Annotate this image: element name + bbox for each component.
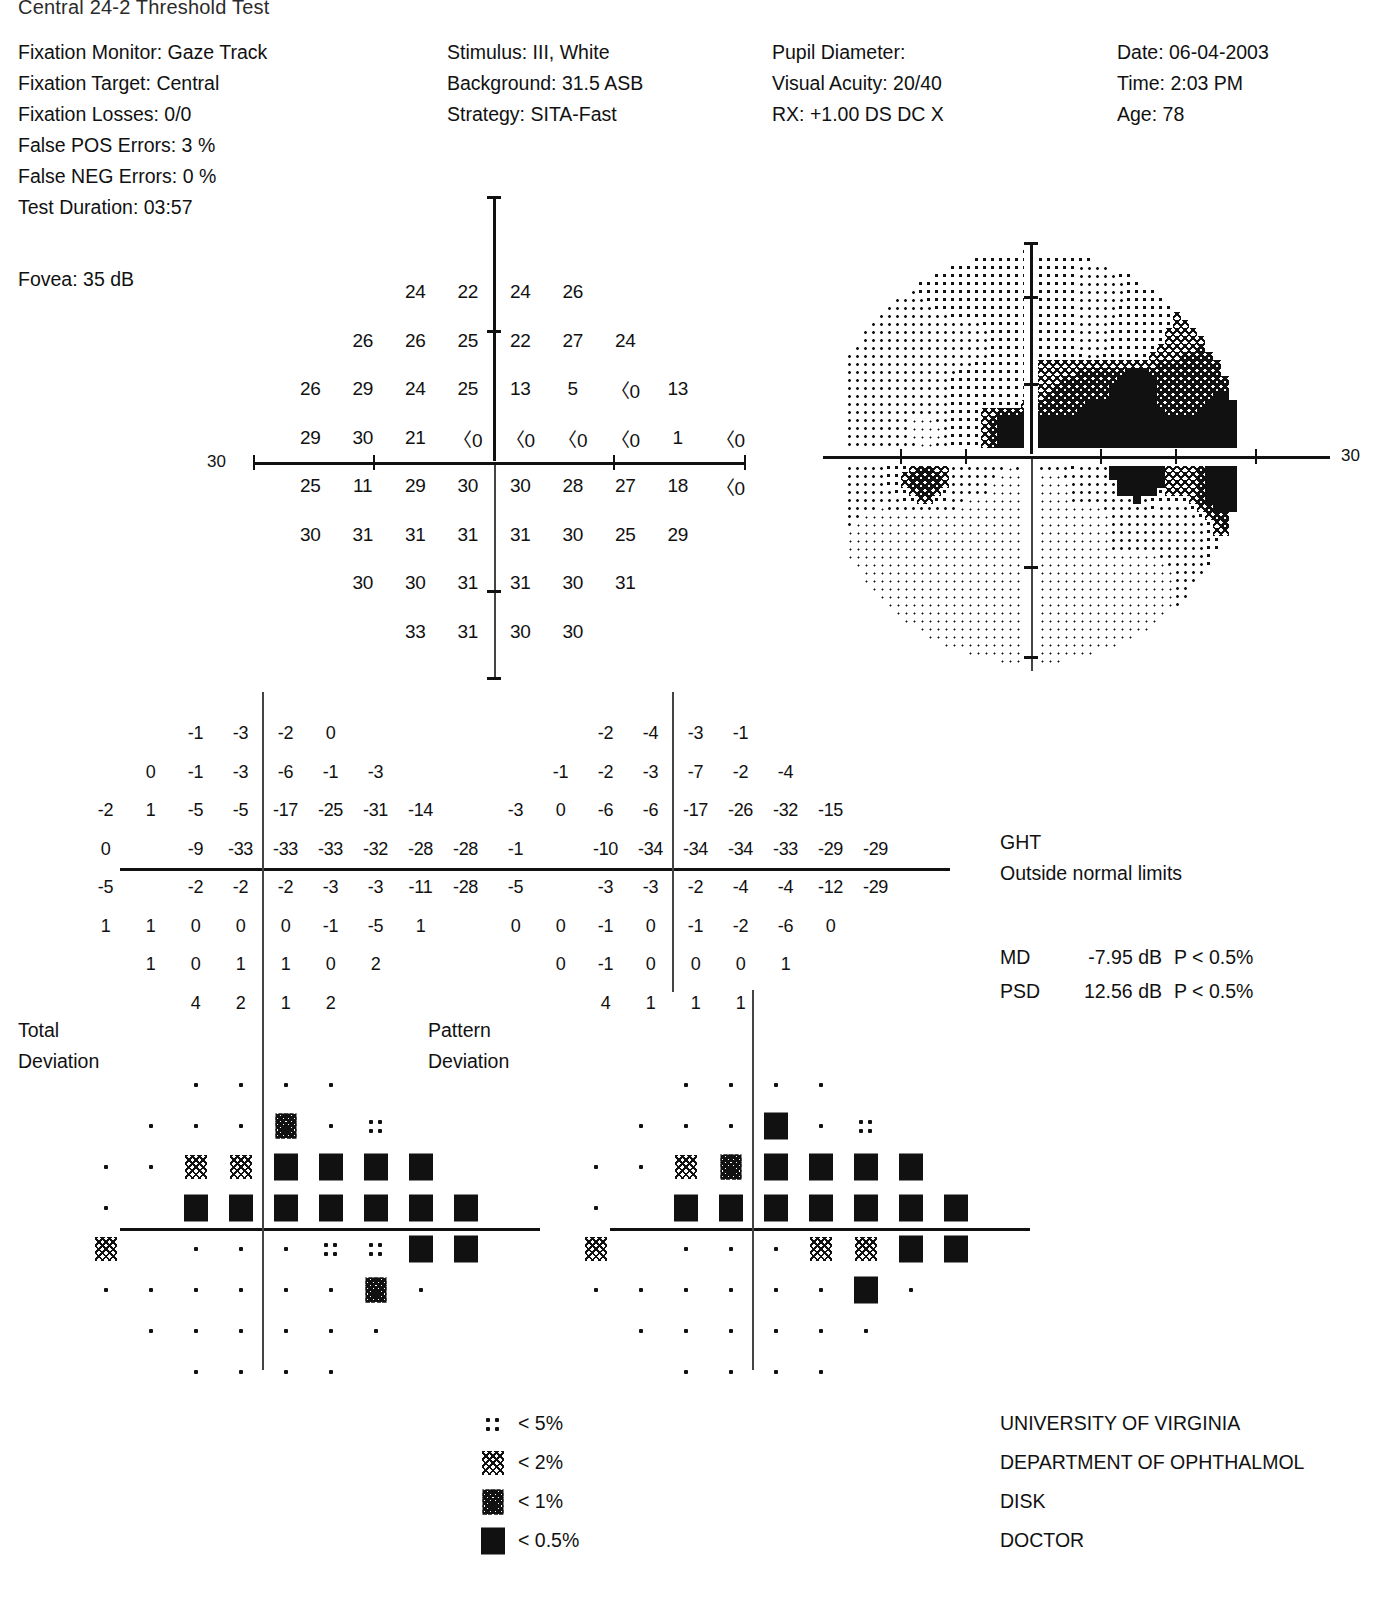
grayscale-cell <box>853 480 861 488</box>
grayscale-cell <box>917 368 925 376</box>
grayscale-cell <box>885 344 893 352</box>
grayscale-cell <box>1005 568 1013 576</box>
sensitivity-value: 30 <box>550 572 596 594</box>
grayscale-cell <box>933 360 941 368</box>
grayscale-cell <box>981 520 989 528</box>
grayscale-cell <box>845 480 853 488</box>
grayscale-cell <box>893 368 901 376</box>
grayscale-cell <box>973 384 981 392</box>
grayscale-cell <box>1101 568 1109 576</box>
grayscale-cell <box>893 584 901 592</box>
grayscale-cell <box>1141 368 1149 376</box>
grayscale-cell <box>1133 408 1141 416</box>
grayscale-cell <box>1197 488 1205 496</box>
grayscale-cell <box>965 280 973 288</box>
grayscale-cell <box>965 336 973 344</box>
grayscale-cell <box>869 584 877 592</box>
grayscale-cell <box>1181 352 1189 360</box>
grayscale-cell <box>1157 472 1165 480</box>
grayscale-cell <box>989 480 997 488</box>
grayscale-cell <box>1165 528 1173 536</box>
grayscale-cell <box>989 352 997 360</box>
grayscale-cell <box>1125 328 1133 336</box>
grayscale-cell <box>901 592 909 600</box>
grayscale-cell <box>1109 472 1117 480</box>
grayscale-cell <box>1061 312 1069 320</box>
sensitivity-value: 30 <box>497 475 543 497</box>
grayscale-cell <box>989 408 997 416</box>
sensitivity-value: 26 <box>550 281 596 303</box>
sensitivity-value: 29 <box>287 427 333 449</box>
grayscale-cell <box>1077 336 1085 344</box>
grayscale-cell <box>1117 504 1125 512</box>
grayscale-cell <box>989 264 997 272</box>
probability-symbol-normal <box>628 1152 654 1182</box>
grayscale-cell <box>1085 288 1093 296</box>
grayscale-cell <box>869 416 877 424</box>
grayscale-cell <box>973 472 981 480</box>
grayscale-cell <box>1197 512 1205 520</box>
grayscale-cell <box>1141 392 1149 400</box>
grayscale-cell <box>1205 528 1213 536</box>
grayscale-cell <box>1093 424 1101 432</box>
grayscale-cell <box>1189 552 1197 560</box>
grayscale-cell <box>1005 528 1013 536</box>
grayscale-cell <box>1085 576 1093 584</box>
grayscale-cell <box>965 560 973 568</box>
grayscale-cell <box>1045 624 1053 632</box>
deviation-value: 0 <box>539 954 583 975</box>
legend-symbol <box>480 1448 514 1478</box>
grayscale-cell <box>933 472 941 480</box>
grayscale-cell <box>885 576 893 584</box>
grayscale-cell <box>1005 408 1013 416</box>
grayscale-cell <box>1133 520 1141 528</box>
grayscale-cell <box>949 296 957 304</box>
grayscale-cell <box>1173 536 1181 544</box>
grayscale-cell <box>917 400 925 408</box>
grayscale-cell <box>861 384 869 392</box>
grayscale-cell <box>949 496 957 504</box>
deviation-value: -2 <box>674 877 718 898</box>
grayscale-cell <box>997 472 1005 480</box>
sensitivity-value: 5 <box>550 378 596 400</box>
sensitivity-value: 21 <box>392 427 438 449</box>
grayscale-cell <box>997 392 1005 400</box>
grayscale-cell <box>1213 472 1221 480</box>
grayscale-cell <box>973 608 981 616</box>
grayscale-cell <box>973 576 981 584</box>
probability-symbol-normal <box>363 1316 389 1346</box>
grayscale-cell <box>1085 344 1093 352</box>
grayscale-cell <box>1013 504 1021 512</box>
grayscale-cell <box>1061 336 1069 344</box>
grayscale-cell <box>1045 376 1053 384</box>
grayscale-cell <box>957 576 965 584</box>
grayscale-cell <box>1069 552 1077 560</box>
grayscale-cell <box>1173 328 1181 336</box>
grayscale-cell <box>989 344 997 352</box>
footer-line-department: DEPARTMENT OF OPHTHALMOL <box>1000 1443 1304 1482</box>
grayscale-cell <box>1045 480 1053 488</box>
grayscale-cell <box>933 624 941 632</box>
grayscale-cell <box>989 584 997 592</box>
grayscale-cell <box>997 536 1005 544</box>
grayscale-cell <box>1037 560 1045 568</box>
grayscale-cell <box>893 576 901 584</box>
probability-symbol-p05 <box>899 1153 923 1180</box>
grayscale-cell <box>1045 392 1053 400</box>
grayscale-cell <box>1125 472 1133 480</box>
grayscale-cell <box>1197 384 1205 392</box>
grayscale-cell <box>1125 296 1133 304</box>
grayscale-cell <box>1069 496 1077 504</box>
date-line: Date: 06-04-2003 <box>1117 37 1269 68</box>
grayscale-cell <box>1061 328 1069 336</box>
grayscale-cell <box>1005 632 1013 640</box>
grayscale-cell <box>1181 344 1189 352</box>
grayscale-cell <box>1149 536 1157 544</box>
grayscale-cell <box>997 256 1005 264</box>
grayscale-cell <box>941 536 949 544</box>
grayscale-cell <box>941 432 949 440</box>
grayscale-cell <box>941 488 949 496</box>
grayscale-cell <box>1173 560 1181 568</box>
grayscale-cell <box>1093 416 1101 424</box>
grayscale-cell <box>1013 256 1021 264</box>
